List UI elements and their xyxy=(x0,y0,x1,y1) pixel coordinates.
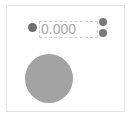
dot-icon[interactable] xyxy=(28,23,37,32)
increment-button[interactable] xyxy=(99,18,107,26)
circle-indicator xyxy=(25,54,73,103)
decrement-button[interactable] xyxy=(99,29,107,37)
number-input[interactable]: 0.000 xyxy=(39,21,98,38)
